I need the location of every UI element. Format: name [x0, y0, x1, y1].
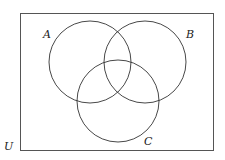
set-b-circle [104, 21, 186, 103]
set-c-circle [77, 60, 159, 142]
set-a-circle [49, 21, 131, 103]
set-c-label: C [144, 135, 153, 148]
set-a-label: A [42, 28, 51, 41]
set-b-label: B [185, 28, 194, 41]
universe-label: U [4, 140, 14, 153]
venn-diagram: A B C U [0, 0, 225, 160]
